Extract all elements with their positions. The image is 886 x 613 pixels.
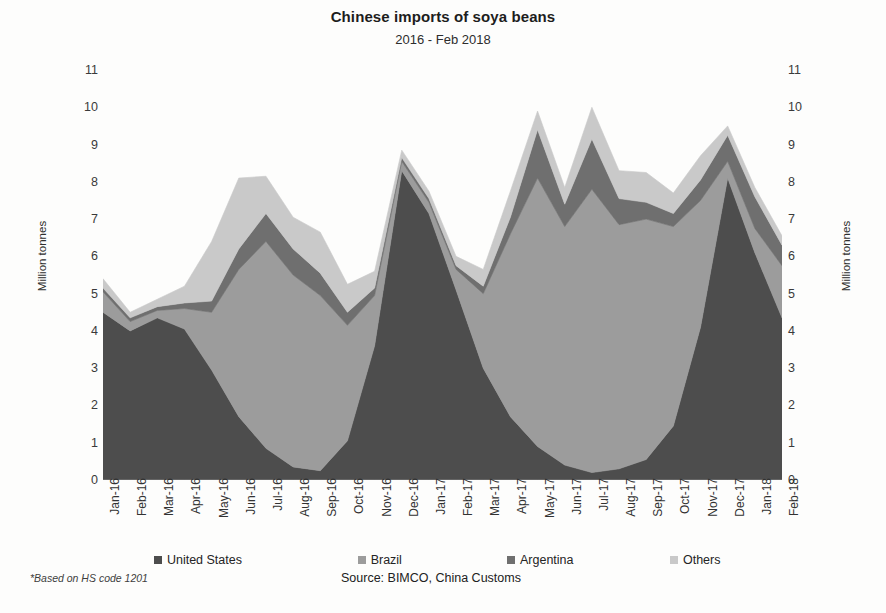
legend-item-others[interactable]: Others xyxy=(670,553,721,567)
legend-item-united-states[interactable]: United States xyxy=(154,553,242,567)
y-tick-left-10: 10 xyxy=(58,101,98,113)
x-tick-jul-16: Jul-16 xyxy=(271,478,285,542)
y-tick-left-5: 5 xyxy=(58,288,98,300)
chart-source: Source: BIMCO, China Customs xyxy=(341,571,521,585)
chart-legend: United StatesBrazilArgentinaOthers xyxy=(103,553,782,573)
x-tick-mar-17: Mar-17 xyxy=(488,478,502,542)
y-axis-left: 01234567891011 xyxy=(58,70,98,480)
y-tick-left-1: 1 xyxy=(58,437,98,449)
stacked-area-svg xyxy=(103,70,782,480)
chart-figure: Chinese imports of soya beans 2016 - Feb… xyxy=(0,0,886,613)
y-axis-right: 01234567891011 xyxy=(788,70,828,480)
legend-swatch-icon xyxy=(358,556,366,564)
chart-subtitle: 2016 - Feb 2018 xyxy=(0,32,886,47)
x-tick-nov-17: Nov-17 xyxy=(706,478,720,542)
y-tick-left-6: 6 xyxy=(58,250,98,262)
y-axis-right-title: Million tonnes xyxy=(840,206,852,306)
y-axis-left-title: Million tonnes xyxy=(36,206,48,306)
y-tick-left-4: 4 xyxy=(58,325,98,337)
x-axis: Jan-16Feb-16Mar-16Apr-16May-16Jun-16Jul-… xyxy=(103,482,782,544)
y-tick-left-7: 7 xyxy=(58,213,98,225)
y-tick-right-1: 1 xyxy=(788,437,828,449)
x-tick-aug-17: Aug-17 xyxy=(624,478,638,542)
y-tick-right-4: 4 xyxy=(788,325,828,337)
y-tick-right-8: 8 xyxy=(788,176,828,188)
y-tick-left-9: 9 xyxy=(58,139,98,151)
x-tick-nov-16: Nov-16 xyxy=(380,478,394,542)
y-tick-right-11: 11 xyxy=(788,64,828,76)
x-tick-apr-17: Apr-17 xyxy=(515,478,529,542)
plot-area xyxy=(103,70,782,480)
x-tick-jan-16: Jan-16 xyxy=(108,478,122,542)
legend-label: United States xyxy=(167,553,242,567)
y-tick-right-7: 7 xyxy=(788,213,828,225)
x-tick-feb-18: Feb-18 xyxy=(787,478,801,542)
x-tick-oct-17: Oct-17 xyxy=(678,478,692,542)
chart-title: Chinese imports of soya beans xyxy=(0,8,886,25)
x-tick-dec-17: Dec-17 xyxy=(733,478,747,542)
x-tick-jul-17: Jul-17 xyxy=(597,478,611,542)
x-tick-jan-17: Jan-17 xyxy=(434,478,448,542)
x-tick-may-17: May-17 xyxy=(543,478,557,542)
y-tick-right-2: 2 xyxy=(788,399,828,411)
chart-footnote: *Based on HS code 1201 xyxy=(30,572,148,584)
legend-swatch-icon xyxy=(670,556,678,564)
x-tick-aug-16: Aug-16 xyxy=(298,478,312,542)
legend-label: Brazil xyxy=(371,553,402,567)
y-tick-left-2: 2 xyxy=(58,399,98,411)
legend-item-argentina[interactable]: Argentina xyxy=(507,553,574,567)
y-tick-right-5: 5 xyxy=(788,288,828,300)
x-tick-may-16: May-16 xyxy=(217,478,231,542)
x-tick-jun-16: Jun-16 xyxy=(244,478,258,542)
x-tick-feb-17: Feb-17 xyxy=(461,478,475,542)
legend-swatch-icon xyxy=(154,556,162,564)
x-tick-jan-18: Jan-18 xyxy=(760,478,774,542)
y-tick-right-3: 3 xyxy=(788,362,828,374)
legend-swatch-icon xyxy=(507,556,515,564)
x-tick-dec-16: Dec-16 xyxy=(407,478,421,542)
legend-label: Others xyxy=(683,553,721,567)
y-tick-right-6: 6 xyxy=(788,250,828,262)
y-tick-left-0: 0 xyxy=(58,474,98,486)
y-tick-left-8: 8 xyxy=(58,176,98,188)
x-tick-jun-17: Jun-17 xyxy=(570,478,584,542)
y-tick-left-3: 3 xyxy=(58,362,98,374)
x-tick-mar-16: Mar-16 xyxy=(162,478,176,542)
y-tick-left-11: 11 xyxy=(58,64,98,76)
y-tick-right-10: 10 xyxy=(788,101,828,113)
y-tick-right-9: 9 xyxy=(788,139,828,151)
x-tick-feb-16: Feb-16 xyxy=(135,478,149,542)
x-tick-oct-16: Oct-16 xyxy=(352,478,366,542)
x-tick-sep-17: Sep-17 xyxy=(651,478,665,542)
legend-item-brazil[interactable]: Brazil xyxy=(358,553,402,567)
x-tick-sep-16: Sep-16 xyxy=(325,478,339,542)
legend-label: Argentina xyxy=(520,553,574,567)
x-tick-apr-16: Apr-16 xyxy=(189,478,203,542)
